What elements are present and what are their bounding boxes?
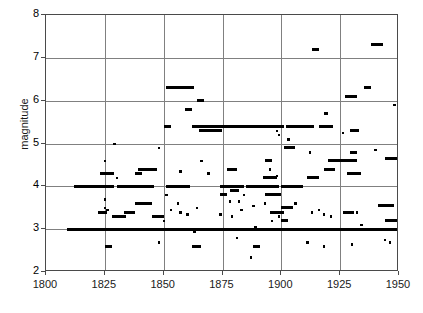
y-tick-label: 4: [13, 179, 39, 190]
y-tick-label: 7: [13, 51, 39, 62]
gridline-horizontal: [46, 101, 397, 102]
event-point: [254, 226, 257, 229]
event-point: [276, 130, 279, 133]
event-point: [179, 170, 182, 173]
magnitude-run-segment: [319, 125, 333, 128]
event-point: [276, 175, 279, 178]
event-point: [323, 245, 326, 248]
magnitude-run-segment: [347, 172, 361, 175]
event-point: [158, 241, 161, 244]
event-point: [186, 213, 189, 216]
event-point: [104, 198, 107, 201]
event-point: [238, 200, 241, 203]
magnitude-run-segment: [263, 176, 277, 179]
event-point: [285, 220, 288, 223]
magnitude-run-segment: [307, 176, 319, 179]
gridline-vertical: [340, 15, 341, 270]
event-point: [278, 134, 281, 137]
x-tick-mark: [398, 271, 399, 275]
plot-area: [45, 14, 398, 271]
magnitude-run-segment: [265, 159, 272, 162]
event-point: [240, 209, 243, 212]
magnitude-run-segment: [343, 211, 355, 214]
magnitude-run-segment: [192, 125, 284, 128]
event-point: [116, 177, 119, 180]
event-point: [236, 237, 239, 240]
event-point: [219, 213, 222, 216]
magnitude-run-segment: [281, 206, 293, 209]
magnitude-run-segment: [345, 95, 357, 98]
x-tick-label: 1875: [202, 279, 242, 290]
magnitude-run-segment: [197, 99, 204, 102]
event-point: [179, 211, 182, 214]
event-point: [229, 200, 232, 203]
magnitude-run-segment: [378, 204, 394, 207]
event-point: [351, 243, 354, 246]
x-tick-mark: [45, 271, 46, 275]
magnitude-run-segment: [199, 129, 223, 132]
gridline-horizontal: [46, 58, 397, 59]
magnitude-run-segment: [286, 125, 314, 128]
magnitude-run-segment: [135, 202, 151, 205]
y-tick-label: 6: [13, 94, 39, 105]
event-point: [278, 215, 281, 218]
event-point: [287, 138, 290, 141]
magnitude-run-segment: [328, 159, 356, 162]
event-point: [311, 211, 314, 214]
magnitude-run-segment: [100, 172, 114, 175]
magnitude-run-segment: [185, 108, 192, 111]
magnitude-run-segment: [112, 215, 126, 218]
gridline-vertical: [105, 15, 106, 270]
y-axis-title: magnitude: [18, 74, 30, 174]
magnitude-run-segment: [117, 185, 155, 188]
event-point: [200, 160, 203, 163]
magnitude-run-segment: [253, 245, 260, 248]
magnitude-run-segment: [227, 168, 236, 171]
event-point: [271, 220, 274, 223]
magnitude-run-segment: [230, 189, 239, 192]
event-point: [356, 211, 359, 214]
x-tick-mark: [280, 271, 281, 275]
magnitude-run-segment: [246, 185, 279, 188]
event-point: [170, 209, 173, 212]
gridline-vertical: [164, 15, 165, 270]
event-point: [306, 241, 309, 244]
magnitude-run-segment: [192, 245, 201, 248]
event-point: [252, 205, 255, 208]
magnitude-run-segment: [324, 168, 336, 171]
event-point: [360, 224, 363, 227]
magnitude-run-segment: [164, 125, 171, 128]
event-point: [186, 185, 189, 188]
event-point: [330, 215, 333, 218]
magnitude-run-segment: [312, 48, 319, 51]
y-tick-label: 3: [13, 222, 39, 233]
event-point: [389, 241, 392, 244]
event-point: [342, 132, 345, 135]
event-point: [323, 213, 326, 216]
event-point: [104, 160, 107, 163]
y-tick-label: 2: [13, 265, 39, 276]
event-point: [113, 143, 116, 146]
magnitude-run-segment: [74, 185, 114, 188]
event-point: [269, 168, 272, 171]
event-point: [165, 194, 168, 197]
magnitude-run-segment: [70, 228, 397, 231]
event-point: [231, 215, 234, 218]
event-point: [309, 151, 312, 154]
event-point: [318, 209, 321, 212]
event-point: [393, 104, 396, 107]
x-tick-label: 1800: [25, 279, 65, 290]
event-point: [243, 194, 246, 197]
magnitude-run-segment: [124, 211, 136, 214]
magnitude-run-segment: [281, 185, 302, 188]
event-point: [196, 207, 199, 210]
event-point: [193, 230, 196, 233]
gridline-vertical: [281, 15, 282, 270]
event-point: [163, 220, 166, 223]
x-tick-label: 1925: [319, 279, 359, 290]
event-point: [207, 172, 210, 175]
magnitude-run-segment: [105, 245, 112, 248]
event-point: [384, 239, 387, 242]
magnitude-run-segment: [220, 193, 227, 196]
event-point: [174, 185, 177, 188]
